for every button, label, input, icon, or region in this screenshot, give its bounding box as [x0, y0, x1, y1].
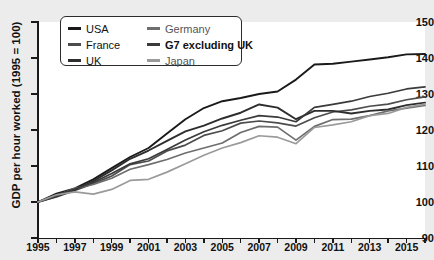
legend-label: France — [86, 39, 120, 51]
chart-container: GDP per hour worked (1995 = 100) 9010011… — [0, 0, 434, 260]
legend-column-left: USAFranceUK — [68, 21, 120, 69]
legend-swatch-icon — [147, 27, 160, 30]
legend-item[interactable]: G7 excluding UK — [147, 37, 253, 52]
legend-label: Japan — [165, 55, 195, 67]
series-line — [38, 103, 425, 202]
legend-swatch-icon — [68, 43, 81, 46]
series-line — [38, 104, 425, 202]
legend-item[interactable]: Germany — [147, 21, 253, 36]
legend-swatch-icon — [68, 27, 81, 30]
legend-label: G7 excluding UK — [165, 39, 253, 51]
legend-label: USA — [86, 23, 109, 35]
chart-legend: USAFranceUK GermanyG7 excluding UKJapan — [60, 16, 242, 66]
legend-swatch-icon — [68, 59, 81, 62]
series-line — [38, 87, 425, 202]
legend-item[interactable]: Japan — [147, 53, 253, 68]
legend-swatch-icon — [147, 43, 160, 46]
legend-column-right: GermanyG7 excluding UKJapan — [147, 21, 253, 69]
legend-label: UK — [86, 55, 101, 67]
series-line — [38, 106, 425, 202]
legend-item[interactable]: France — [68, 37, 120, 52]
legend-item[interactable]: UK — [68, 53, 120, 68]
legend-label: Germany — [165, 23, 210, 35]
series-line — [38, 97, 425, 202]
legend-swatch-icon — [147, 59, 160, 62]
legend-item[interactable]: USA — [68, 21, 120, 36]
